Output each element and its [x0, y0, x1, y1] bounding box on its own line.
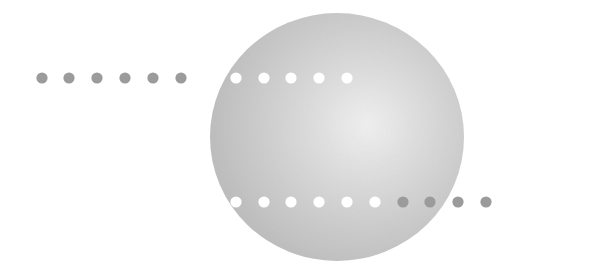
white-dot-icon [313, 72, 324, 83]
white-dot-icon [258, 196, 269, 207]
white-dot-icon [313, 196, 324, 207]
white-dot-icon [202, 72, 213, 83]
white-dot-icon [258, 72, 269, 83]
gray-dot-icon [63, 72, 74, 83]
white-dot-icon [341, 196, 352, 207]
gray-dot-icon [175, 72, 186, 83]
white-dot-icon [230, 196, 241, 207]
gray-dot-icon [91, 72, 102, 83]
gray-dot-icon [36, 72, 47, 83]
gray-dot-icon [147, 72, 158, 83]
sphere-dots-illustration [0, 0, 604, 272]
white-dot-icon [285, 72, 296, 83]
gray-dot-icon [424, 196, 435, 207]
gray-dot-icon [397, 196, 408, 207]
white-dot-icon [230, 72, 241, 83]
gray-dot-icon [119, 72, 130, 83]
white-dot-icon [285, 196, 296, 207]
gray-dot-icon [480, 196, 491, 207]
gray-sphere [210, 13, 464, 261]
white-dot-icon [369, 196, 380, 207]
white-dot-icon [341, 72, 352, 83]
diagram-canvas [0, 0, 604, 272]
gray-dot-icon [452, 196, 463, 207]
